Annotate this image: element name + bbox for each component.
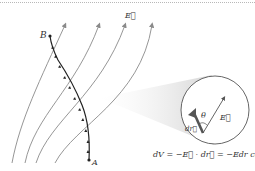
point-b-label: B xyxy=(40,31,47,40)
magnified-inset-circle xyxy=(181,76,249,144)
diagram-canvas: B A E⃗ θ dr⃗ E⃗ dV = −E⃗ · dr⃗ = −Edr co… xyxy=(0,0,255,171)
potential-formula: dV = −E⃗ · dr⃗ = −Edr cosθ xyxy=(153,150,255,159)
point-b-dot xyxy=(48,34,51,37)
field-line-1 xyxy=(12,25,65,163)
field-e-label: E⃗ xyxy=(125,12,136,20)
inset-e-label: E⃗ xyxy=(220,114,231,122)
theta-label: θ xyxy=(201,112,206,120)
path-a-to-b xyxy=(48,34,90,161)
field-diagram-svg xyxy=(0,0,255,171)
point-a-label: A xyxy=(92,159,98,167)
dr-label: dr⃗ xyxy=(185,126,197,133)
point-a-dot xyxy=(87,158,90,161)
field-line-3 xyxy=(36,25,125,163)
